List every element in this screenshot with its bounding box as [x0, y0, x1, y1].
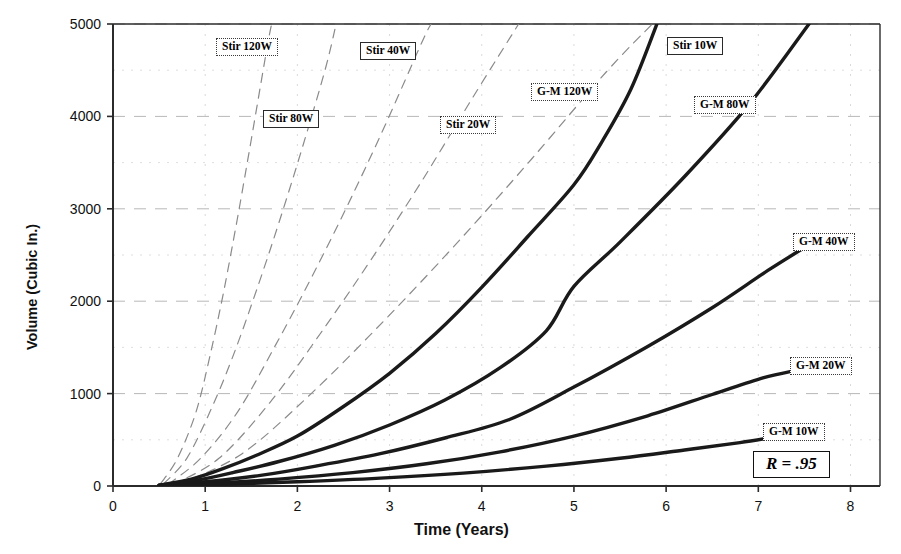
svg-text:8: 8 [847, 498, 855, 514]
chart-figure: Volume (Cubic In.) Time (Years) 01000200… [0, 0, 901, 554]
svg-text:2: 2 [293, 498, 301, 514]
series-curve [161, 24, 272, 483]
x-axis-title: Time (Years) [414, 521, 509, 539]
svg-text:0: 0 [109, 498, 117, 514]
svg-text:0: 0 [93, 478, 101, 494]
svg-text:4000: 4000 [70, 108, 101, 124]
series-label-box: Stir 80W [263, 110, 319, 128]
plot-frame [113, 24, 880, 486]
series-curve [173, 24, 519, 485]
svg-text:6: 6 [662, 498, 670, 514]
series-label-box: Stir 40W [360, 42, 416, 60]
svg-text:1: 1 [201, 498, 209, 514]
svg-text:3: 3 [386, 498, 394, 514]
svg-text:3000: 3000 [70, 201, 101, 217]
series-curve [159, 24, 809, 485]
axis-ticks [107, 24, 851, 492]
y-axis-title: Volume (Cubic In.) [24, 224, 40, 350]
series-label-box: Stir 10W [667, 37, 723, 55]
series-label-box: Stir 20W [440, 116, 496, 134]
series-curve [164, 24, 336, 484]
svg-text:5000: 5000 [70, 16, 101, 32]
series-curve [168, 24, 431, 484]
series-label-box: Stir 120W [216, 38, 278, 56]
svg-text:2000: 2000 [70, 293, 101, 309]
series-label-box: G-M 120W [531, 83, 598, 101]
svg-text:4: 4 [478, 498, 486, 514]
correlation-annotation: R = .95 [753, 451, 830, 478]
grid-lines [113, 24, 880, 486]
series-label-box: G-M 10W [763, 423, 825, 441]
series-label-box: G-M 20W [790, 357, 852, 375]
svg-text:1000: 1000 [70, 386, 101, 402]
svg-text:7: 7 [754, 498, 762, 514]
series-curve [159, 245, 809, 486]
series-label-box: G-M 80W [694, 96, 756, 114]
series-label-box: G-M 40W [793, 233, 855, 251]
tick-labels: 010002000300040005000012345678 [70, 16, 855, 514]
svg-text:5: 5 [570, 498, 578, 514]
gm-curves [159, 24, 809, 486]
